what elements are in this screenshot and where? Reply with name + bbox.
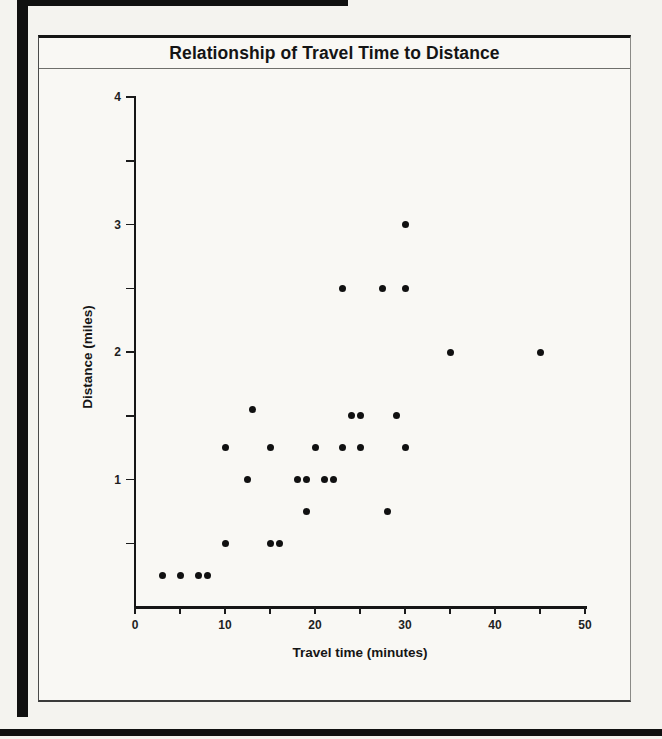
chart-title: Relationship of Travel Time to Distance — [169, 43, 499, 64]
page-edge-left-bar — [17, 0, 28, 717]
chart-title-band: Relationship of Travel Time to Distance — [39, 38, 630, 69]
scanned-page: Relationship of Travel Time to Distance … — [0, 0, 662, 739]
page-edge-bottom-bar — [0, 729, 662, 736]
page-edge-top-bar — [17, 0, 348, 6]
chart-frame: Relationship of Travel Time to Distance — [38, 35, 631, 702]
